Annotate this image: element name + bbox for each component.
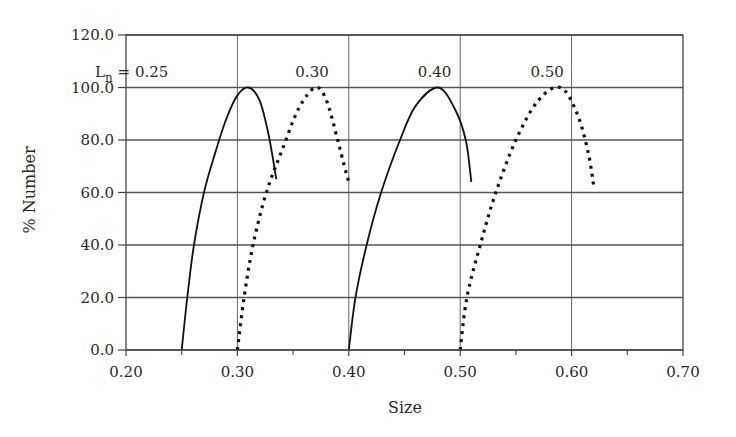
curve-label: 0.30 — [295, 63, 328, 81]
series-line-4 — [460, 87, 594, 350]
x-tick-label: 0.60 — [555, 363, 588, 381]
x-axis-title: Size — [388, 398, 422, 417]
curve-label: Ln = 0.25 — [95, 63, 168, 85]
y-tick-label: 20.0 — [81, 289, 114, 307]
x-tick-label: 0.30 — [221, 363, 254, 381]
grid-lines — [126, 35, 683, 350]
y-tick-label: 80.0 — [81, 131, 114, 149]
line-chart: 0.200.300.400.500.600.70 0.020.040.060.0… — [0, 0, 736, 437]
y-tick-label: 40.0 — [81, 236, 114, 254]
curve-label: 0.40 — [418, 63, 451, 81]
series-line-2 — [237, 87, 348, 350]
series-line-1 — [182, 87, 277, 350]
data-series — [182, 87, 594, 350]
y-tick-label: 120.0 — [71, 26, 114, 44]
y-tick-label: 0.0 — [90, 341, 114, 359]
curve-labels: Ln = 0.250.300.400.50 — [95, 63, 564, 85]
x-tick-label: 0.40 — [332, 363, 365, 381]
x-axis-ticks: 0.200.300.400.500.600.70 — [109, 350, 699, 381]
x-tick-label: 0.70 — [666, 363, 699, 381]
x-tick-label: 0.20 — [109, 363, 142, 381]
y-axis-title: % Number — [20, 146, 39, 233]
curve-label: 0.50 — [530, 63, 563, 81]
y-tick-label: 60.0 — [81, 184, 114, 202]
x-tick-label: 0.50 — [443, 363, 476, 381]
series-line-3 — [349, 87, 472, 350]
